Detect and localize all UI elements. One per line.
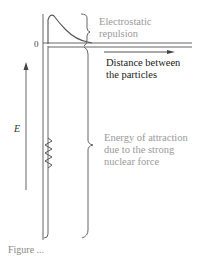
attraction-label-line1: Energy of attraction xyxy=(104,132,188,144)
zero-label: 0 xyxy=(34,38,39,50)
repulsion-label-line2: repulsion xyxy=(99,28,138,40)
distance-label-line1: Distance between xyxy=(106,57,180,69)
repulsion-label-line1: Electrostatic xyxy=(99,16,151,28)
repulsion-curve xyxy=(48,15,92,44)
attraction-label-line2: due to the strong xyxy=(104,144,174,156)
energy-axis-label: E xyxy=(14,123,20,135)
attraction-label-line3: nuclear force xyxy=(104,156,159,168)
figure-caption: Figure ... xyxy=(8,244,44,256)
attraction-brace xyxy=(82,47,93,238)
zero-baseline xyxy=(43,43,192,47)
energy-axis-arrow xyxy=(24,62,29,190)
distance-label-line2: the particles xyxy=(106,69,157,81)
well-wall xyxy=(43,14,48,240)
distance-arrow xyxy=(104,50,175,54)
